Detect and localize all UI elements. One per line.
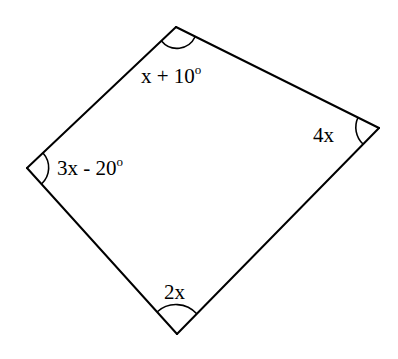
angle-arc-right	[356, 118, 363, 145]
angle-label-right: 4x	[313, 123, 335, 147]
angle-label-top: x + 10o	[141, 62, 201, 88]
edge-right-bottom	[177, 128, 379, 334]
edge-left-top	[27, 27, 176, 168]
angle-arc-left	[42, 153, 49, 184]
edge-bottom-left	[27, 168, 177, 334]
angle-label-bottom: 2x	[164, 280, 186, 304]
quadrilateral-diagram: x + 10o 4x 2x 3x - 20o	[0, 0, 398, 359]
angle-label-left: 3x - 20o	[57, 154, 123, 180]
angle-arc-top	[162, 37, 196, 48]
edge-top-right	[176, 27, 379, 128]
angle-arc-bottom	[157, 305, 197, 314]
